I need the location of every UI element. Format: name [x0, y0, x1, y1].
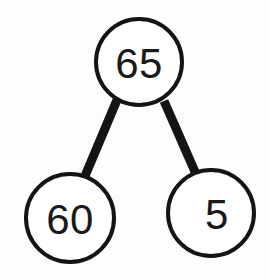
number-bond-diagram: 65 60 5	[0, 0, 269, 280]
node-whole[interactable]: 65	[96, 19, 182, 105]
diagram-canvas: 65 60 5	[0, 0, 269, 280]
node-part-left[interactable]: 60	[26, 174, 114, 262]
node-part-left-label: 60	[46, 196, 94, 243]
connector-whole-to-right-part	[164, 101, 196, 174]
node-part-right-label: 5	[205, 191, 229, 238]
node-whole-label: 65	[115, 40, 163, 87]
node-part-right[interactable]: 5	[168, 170, 254, 256]
connector-whole-to-left-part	[85, 100, 117, 176]
